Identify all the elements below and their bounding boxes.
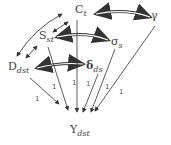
node-ct-sub: t bbox=[83, 9, 86, 18]
covariance-ct-gamma bbox=[96, 12, 150, 17]
node-gamma-base: γ bbox=[151, 9, 158, 22]
node-sst: Sst bbox=[39, 30, 54, 44]
node-gamma: γ bbox=[151, 10, 158, 21]
path-label-sigma: 1 bbox=[105, 84, 109, 91]
node-sigma-base: σ bbox=[111, 35, 119, 48]
path-label-sst: 1 bbox=[52, 84, 56, 91]
node-sigma: σs bbox=[111, 36, 123, 50]
covariance-ddst-delta bbox=[37, 64, 83, 69]
node-sigma-sub: s bbox=[119, 41, 123, 50]
node-ddst: Ddst bbox=[8, 61, 29, 75]
node-sst-sub: st bbox=[47, 35, 54, 44]
path-label-ddst: 1 bbox=[35, 96, 39, 103]
node-ydst: Ydst bbox=[70, 124, 90, 138]
node-ydst-sub: dst bbox=[77, 129, 89, 138]
path-sigma-ydst bbox=[91, 49, 115, 112]
covariance-sst-sigma bbox=[57, 35, 108, 40]
path-label-ct: 1 bbox=[72, 80, 76, 87]
node-delta: δds bbox=[86, 60, 103, 74]
covariance-sst-ddst bbox=[26, 46, 37, 58]
node-delta-sub: ds bbox=[93, 65, 102, 74]
path-label-gamma: 1 bbox=[119, 89, 123, 96]
node-ct: Ct bbox=[75, 4, 87, 18]
path-sst-ydst bbox=[48, 47, 68, 110]
path-label-delta: 1 bbox=[86, 81, 90, 88]
node-ddst-sub: dst bbox=[17, 66, 29, 75]
node-sst-base: S bbox=[39, 29, 47, 42]
node-ddst-base: D bbox=[8, 60, 17, 73]
covariance-ct-sst bbox=[53, 22, 68, 32]
